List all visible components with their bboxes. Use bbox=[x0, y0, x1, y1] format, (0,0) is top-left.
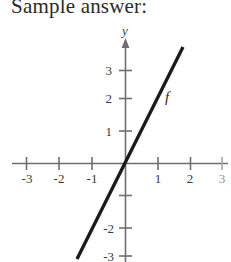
screenshot-root: Sample answer: bbox=[0, 0, 231, 262]
y-tick-label-2: 2 bbox=[100, 92, 112, 105]
y-axis-arrowhead bbox=[122, 38, 130, 48]
x-tick-label--2: -2 bbox=[48, 172, 70, 185]
x-tick-label--1: -1 bbox=[81, 172, 103, 185]
plot-svg bbox=[0, 0, 231, 262]
x-tick-label-3: 3 bbox=[216, 172, 228, 185]
x-tick-label-1: 1 bbox=[152, 172, 164, 185]
x-tick-label--3: -3 bbox=[16, 172, 38, 185]
y-tick-label-3: 3 bbox=[100, 64, 112, 77]
y-tick-label--2: -2 bbox=[92, 222, 114, 235]
x-tick-label-2: 2 bbox=[184, 172, 196, 185]
y-axis-label: y bbox=[122, 24, 128, 37]
y-tick-label--3: -3 bbox=[92, 250, 114, 262]
y-tick-label-1: 1 bbox=[100, 125, 112, 138]
function-label-f: f bbox=[165, 90, 169, 105]
coordinate-plot: -3 -2 -1 1 2 3 3 2 1 -2 -3 y f bbox=[0, 0, 231, 262]
